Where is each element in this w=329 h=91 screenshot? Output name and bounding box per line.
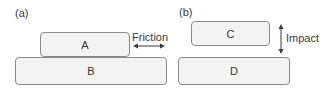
friction-double-arrow-icon bbox=[133, 42, 165, 50]
impact-double-arrow-icon bbox=[277, 24, 285, 54]
block-d-label: D bbox=[230, 65, 238, 77]
block-a: A bbox=[40, 32, 130, 57]
panel-b-label: (b) bbox=[179, 7, 192, 18]
panel-a-label: (a) bbox=[15, 8, 28, 19]
block-c: C bbox=[191, 21, 270, 46]
block-a-label: A bbox=[81, 39, 88, 51]
impact-label: Impact bbox=[286, 33, 319, 44]
block-c-label: C bbox=[227, 28, 235, 40]
block-b: B bbox=[15, 57, 167, 85]
block-d: D bbox=[178, 57, 290, 85]
block-b-label: B bbox=[87, 65, 94, 77]
